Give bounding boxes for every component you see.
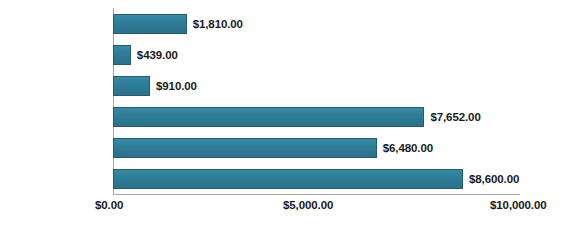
axis-tick-label: $10,000.00: [490, 199, 547, 211]
bar[interactable]: [113, 14, 187, 34]
bar-value-label: $6,480.00: [383, 142, 433, 154]
chart-row: Breakroom $439.00: [113, 39, 520, 70]
bar-value-label: $439.00: [137, 49, 178, 61]
chart-row: Machinery $910.00: [113, 70, 520, 101]
chart-row: Office Rental $8,600.00: [113, 163, 520, 194]
bar[interactable]: [113, 169, 463, 189]
bar[interactable]: [113, 107, 424, 127]
bar[interactable]: [113, 76, 150, 96]
bar-value-label: $7,652.00: [430, 111, 480, 123]
chart-row: Office Supplies $6,480.00: [113, 132, 520, 163]
bar-value-label: $8,600.00: [469, 173, 519, 185]
value-axis-line: [113, 194, 520, 195]
bar[interactable]: [113, 45, 131, 65]
axis-tick-label: $0.00: [95, 199, 123, 211]
axis-tick-label: $5,000.00: [283, 199, 333, 211]
chart-row: Payroll $7,652.00: [113, 101, 520, 132]
chart-row: Utilities $1,810.00: [113, 8, 520, 39]
bar-value-label: $1,810.00: [193, 18, 243, 30]
bar[interactable]: [113, 138, 377, 158]
bar-chart: Utilities $1,810.00 Breakroom $439.00 Ma…: [0, 0, 562, 228]
bar-value-label: $910.00: [156, 80, 197, 92]
plot-area: Utilities $1,810.00 Breakroom $439.00 Ma…: [113, 8, 520, 194]
